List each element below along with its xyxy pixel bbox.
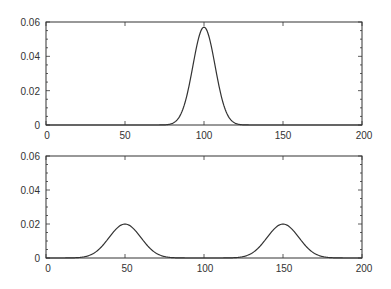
chart-figure: 0 0.02 0.04 0.06 0 50 100 150 200 0 0.02… xyxy=(0,0,391,289)
top-plot-ytick-label-0: 0 xyxy=(34,120,40,131)
top-plot-xtick-label-200: 200 xyxy=(356,130,373,141)
top-plot-x-ticks xyxy=(46,22,362,125)
top-plot-gaussian-curve xyxy=(46,27,362,125)
bottom-plot-xtick-label-150: 150 xyxy=(276,263,293,274)
bottom-plot-y-ticks xyxy=(46,156,362,258)
bottom-plot-xtick-label-0: 0 xyxy=(45,263,51,274)
top-plot-frame xyxy=(46,22,362,125)
top-plot-ytick-label-006: 0.06 xyxy=(21,17,41,28)
bottom-plot: 0 0.02 0.04 0.06 0 50 100 150 200 xyxy=(21,151,373,274)
bottom-plot-frame xyxy=(46,156,362,258)
top-plot-xtick-label-0: 0 xyxy=(44,130,50,141)
bottom-plot-xtick-label-50: 50 xyxy=(121,263,133,274)
top-plot-ytick-label-004: 0.04 xyxy=(21,51,41,62)
bottom-plot-bimodal-curve xyxy=(46,224,362,258)
top-plot-xtick-label-100: 100 xyxy=(196,130,213,141)
bottom-plot-ytick-label-004: 0.04 xyxy=(21,185,41,196)
bottom-plot-ytick-label-0: 0 xyxy=(34,253,40,264)
top-plot-xtick-label-150: 150 xyxy=(275,130,292,141)
bottom-plot-xtick-label-200: 200 xyxy=(356,263,373,274)
bottom-plot-xtick-label-100: 100 xyxy=(197,263,214,274)
bottom-plot-x-ticks xyxy=(46,156,362,258)
bottom-plot-ytick-label-006: 0.06 xyxy=(21,151,41,162)
bottom-plot-ytick-label-002: 0.02 xyxy=(21,219,41,230)
top-plot-ytick-label-002: 0.02 xyxy=(21,86,41,97)
top-plot: 0 0.02 0.04 0.06 0 50 100 150 200 xyxy=(21,17,373,141)
top-plot-y-ticks xyxy=(46,22,362,125)
top-plot-xtick-label-50: 50 xyxy=(119,130,131,141)
